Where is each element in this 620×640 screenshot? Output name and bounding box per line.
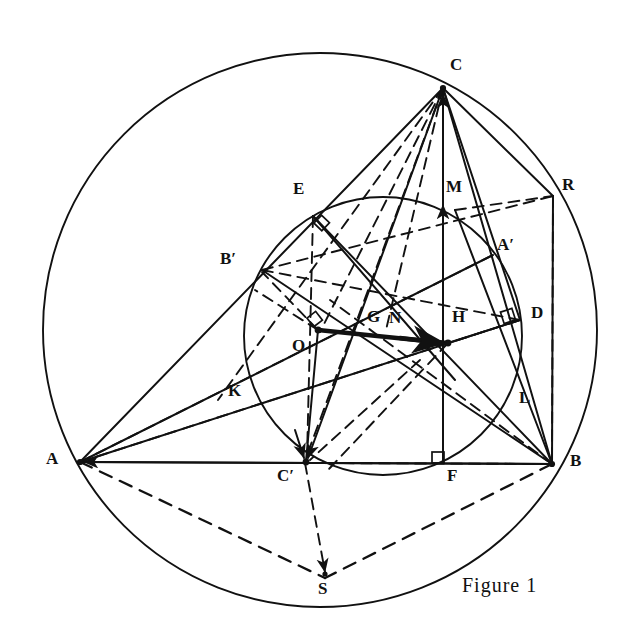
geometry-diagram <box>0 0 620 640</box>
segment-B-N <box>330 300 552 464</box>
segment-E-H <box>313 216 455 380</box>
segment-Cp-S <box>305 463 325 572</box>
dot-Cp <box>303 459 310 466</box>
point-label-B-prime: B′ <box>220 250 236 267</box>
point-label-F: F <box>447 467 457 484</box>
segment-B-R <box>552 196 553 464</box>
segment-O-E-dashed <box>255 290 318 330</box>
point-label-C-prime: C′ <box>277 467 294 484</box>
segment-B-S <box>325 464 552 578</box>
segment-C-K <box>218 88 443 400</box>
figure-canvas: A B C E M R B′ A′ O G N H D K L C′ F S F… <box>0 0 620 640</box>
point-label-G: G <box>367 308 380 325</box>
point-label-L: L <box>519 389 530 406</box>
point-label-E: E <box>293 180 304 197</box>
dot-C <box>440 85 446 91</box>
dot-H <box>445 340 452 347</box>
point-label-H: H <box>452 308 465 325</box>
figure-caption: Figure 1 <box>462 574 537 597</box>
point-label-N: N <box>389 309 401 326</box>
point-label-R: R <box>562 176 574 193</box>
segment-A-C <box>80 88 443 462</box>
segment-C-Ap <box>443 88 520 320</box>
segment-O-R <box>262 196 553 270</box>
segment-M-R <box>455 196 553 210</box>
arrow-O-to-H <box>400 338 444 343</box>
segment-C-Cp <box>308 88 443 458</box>
dot-O <box>315 327 322 334</box>
point-label-K: K <box>228 382 241 399</box>
solid-lines <box>80 88 553 464</box>
point-label-A: A <box>46 450 58 467</box>
point-label-C: C <box>450 56 462 73</box>
point-label-M: M <box>446 178 462 195</box>
point-label-S: S <box>318 580 327 597</box>
dot-A <box>77 459 83 465</box>
dot-S <box>322 571 327 576</box>
segment-A-L <box>80 462 552 464</box>
dot-B <box>549 461 555 467</box>
point-label-A-prime: A′ <box>497 236 514 253</box>
point-label-O: O <box>292 337 305 354</box>
point-label-B: B <box>570 452 581 469</box>
point-label-D: D <box>531 304 543 321</box>
